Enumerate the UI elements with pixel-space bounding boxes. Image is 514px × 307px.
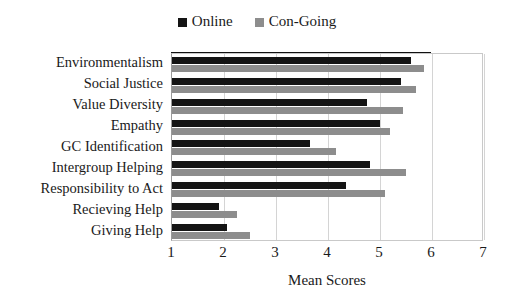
- bar-online: [172, 99, 367, 106]
- bar-group: [172, 200, 482, 221]
- bar-online: [172, 57, 411, 64]
- bar-chart: Online Con-Going EnvironmentalismSocial …: [0, 0, 514, 307]
- y-axis-label: GC Identification: [61, 139, 163, 154]
- bar-online: [172, 161, 370, 168]
- bar-online: [172, 120, 380, 127]
- bar-group: [172, 221, 482, 242]
- bar-group: [172, 179, 482, 200]
- x-axis-tick: 4: [323, 244, 331, 260]
- y-axis-label: Responsibility to Act: [41, 181, 163, 196]
- y-axis-label: Environmentalism: [56, 55, 163, 70]
- bar-congoing: [172, 232, 250, 239]
- legend-entry-online: Online: [178, 14, 233, 29]
- legend-label-online: Online: [192, 14, 233, 29]
- x-axis-tick: 1: [167, 244, 175, 260]
- y-axis-label: Recieving Help: [72, 202, 163, 217]
- bar-online: [172, 203, 219, 210]
- bar-congoing: [172, 211, 237, 218]
- bar-congoing: [172, 169, 406, 176]
- legend-entry-congoing: Con-Going: [255, 14, 337, 29]
- y-axis-label: Empathy: [111, 118, 163, 133]
- x-axis-ticks: 1234567: [171, 244, 483, 264]
- gridline: [484, 54, 485, 240]
- bar-group: [172, 158, 482, 179]
- y-axis-label: Value Diversity: [72, 97, 163, 112]
- bar-group: [172, 96, 482, 117]
- plot-area: [171, 53, 483, 241]
- bar-group: [172, 54, 482, 75]
- bar-online: [172, 182, 346, 189]
- legend-swatch-online-icon: [178, 18, 187, 27]
- y-axis-label: Intergroup Helping: [52, 160, 163, 175]
- bar-group: [172, 117, 482, 138]
- bar-congoing: [172, 107, 403, 114]
- x-axis-tick: 7: [479, 244, 487, 260]
- x-axis-title: Mean Scores: [171, 272, 483, 288]
- y-axis-label: Social Justice: [84, 76, 163, 91]
- bar-group: [172, 75, 482, 96]
- bar-congoing: [172, 190, 385, 197]
- y-axis-labels: EnvironmentalismSocial JusticeValue Dive…: [0, 53, 167, 241]
- bar-congoing: [172, 65, 424, 72]
- y-axis-label: Giving Help: [91, 223, 163, 238]
- x-axis-tick: 6: [427, 244, 435, 260]
- x-axis-tick: 5: [375, 244, 383, 260]
- bar-online: [172, 140, 310, 147]
- bar-online: [172, 224, 227, 231]
- x-axis-tick: 3: [271, 244, 279, 260]
- bar-congoing: [172, 148, 336, 155]
- legend-swatch-congoing-icon: [255, 18, 264, 27]
- chart-legend: Online Con-Going: [0, 14, 514, 29]
- bar-congoing: [172, 128, 390, 135]
- bar-congoing: [172, 86, 416, 93]
- bar-group: [172, 138, 482, 159]
- bar-rows: [172, 54, 482, 240]
- x-axis-tick: 2: [219, 244, 227, 260]
- bar-online: [172, 78, 401, 85]
- legend-label-congoing: Con-Going: [269, 14, 337, 29]
